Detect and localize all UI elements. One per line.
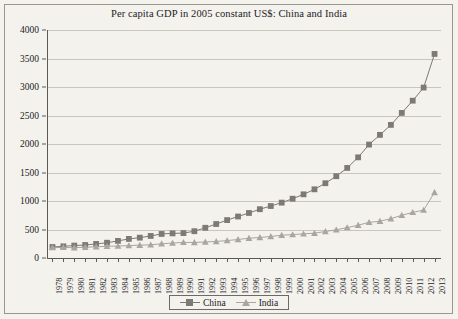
x-axis-tick <box>183 258 184 262</box>
x-axis-tick-label: 2011 <box>416 278 425 294</box>
x-axis-tick-label: 1979 <box>66 278 75 294</box>
x-axis-labels: 1978197919801981198219831984198519861987… <box>47 263 440 297</box>
x-axis-tick <box>391 258 392 262</box>
x-axis-tick-label: 1988 <box>165 278 174 294</box>
y-axis-tick-label: 2500 <box>20 111 39 121</box>
x-axis-tick-label: 1990 <box>186 278 195 294</box>
y-axis-tick-label: 4000 <box>20 25 39 35</box>
x-axis-tick-label: 1999 <box>285 278 294 294</box>
x-axis-tick-label: 1980 <box>77 278 86 294</box>
chart-title: Per capita GDP in 2005 constant US$: Chi… <box>0 8 458 19</box>
data-point-china <box>432 51 438 57</box>
x-axis-tick-label: 1996 <box>252 278 261 294</box>
x-axis-tick <box>413 258 414 262</box>
y-axis-tick-label: 3500 <box>20 54 39 64</box>
data-point-china <box>322 180 328 186</box>
x-axis-tick <box>271 258 272 262</box>
x-axis-tick-label: 1993 <box>219 278 228 294</box>
x-axis-tick <box>140 258 141 262</box>
y-axis-tick-label: 3000 <box>20 82 39 92</box>
x-axis-tick-label: 2003 <box>328 278 337 294</box>
x-axis-tick <box>205 258 206 262</box>
y-axis-tick <box>42 229 46 230</box>
data-point-china <box>312 186 318 192</box>
y-axis-tick <box>42 58 46 59</box>
x-axis-tick-label: 2002 <box>317 278 326 294</box>
data-point-china <box>410 98 416 104</box>
x-axis-tick <box>194 258 195 262</box>
data-point-china <box>333 173 339 179</box>
data-point-china <box>170 230 176 236</box>
y-axis-tick-label: 500 <box>25 225 39 235</box>
data-series-layer <box>47 30 440 258</box>
x-axis-tick-label: 2004 <box>339 278 348 294</box>
x-axis-tick-label: 1981 <box>88 278 97 294</box>
x-axis-tick <box>282 258 283 262</box>
data-point-china <box>344 165 350 171</box>
data-point-china <box>388 122 394 128</box>
x-axis-tick <box>74 258 75 262</box>
data-point-china <box>137 235 143 241</box>
x-axis-tick-label: 2000 <box>296 278 305 294</box>
data-point-china <box>235 214 241 220</box>
data-point-india <box>431 189 438 195</box>
y-axis-tick <box>42 30 46 31</box>
series-line-india <box>52 192 434 247</box>
x-axis-tick-label: 1989 <box>176 278 185 294</box>
y-axis-tick-label: 1500 <box>20 168 39 178</box>
x-axis-tick <box>63 258 64 262</box>
data-point-china <box>191 228 197 234</box>
data-point-china <box>213 221 219 227</box>
data-point-china <box>421 85 427 91</box>
data-point-china <box>290 196 296 202</box>
x-axis-tick <box>304 258 305 262</box>
y-axis-tick <box>42 87 46 88</box>
y-axis-tick-label: 0 <box>34 253 39 263</box>
x-axis-tick <box>107 258 108 262</box>
legend-label-india: India <box>259 298 279 308</box>
data-point-india <box>420 207 427 213</box>
x-axis-tick <box>402 258 403 262</box>
data-point-china <box>279 200 285 206</box>
data-point-china <box>246 210 252 216</box>
x-axis-tick-label: 1991 <box>197 278 206 294</box>
x-axis-tick <box>173 258 174 262</box>
data-point-china <box>148 233 154 239</box>
x-axis-tick <box>151 258 152 262</box>
y-axis-labels: 05001000150020002500300035004000 <box>0 30 45 258</box>
x-axis-tick <box>336 258 337 262</box>
x-axis-tick <box>260 258 261 262</box>
y-axis-tick <box>42 258 46 259</box>
data-point-china <box>224 217 230 223</box>
x-axis-tick-label: 1984 <box>121 278 130 294</box>
x-axis-tick-label: 1985 <box>132 278 141 294</box>
data-point-china <box>301 191 307 197</box>
x-axis-tick-label: 2007 <box>372 278 381 294</box>
x-axis-tick <box>424 258 425 262</box>
x-axis-tick <box>347 258 348 262</box>
x-axis-tick <box>435 258 436 262</box>
x-axis-tick-label: 1978 <box>55 278 64 294</box>
y-axis-tick <box>42 201 46 202</box>
x-axis-tick <box>227 258 228 262</box>
chart-figure: Per capita GDP in 2005 constant US$: Chi… <box>0 0 458 319</box>
y-axis-tick <box>42 115 46 116</box>
x-axis-tick <box>369 258 370 262</box>
x-axis-tick-label: 1986 <box>143 278 152 294</box>
data-point-china <box>399 110 405 116</box>
x-axis-tick-label: 2009 <box>394 278 403 294</box>
x-axis-tick-label: 1995 <box>241 278 250 294</box>
x-axis-tick-label: 1983 <box>110 278 119 294</box>
y-axis-tick <box>42 144 46 145</box>
x-axis-tick-label: 2008 <box>383 278 392 294</box>
x-axis-tick-label: 1987 <box>154 278 163 294</box>
x-axis-tick <box>380 258 381 262</box>
china-marker-icon <box>180 298 200 307</box>
x-axis-tick <box>216 258 217 262</box>
y-axis-tick <box>42 172 46 173</box>
legend-item-china: China <box>180 298 226 308</box>
chart-legend: China India <box>169 295 289 310</box>
x-axis-tick-label: 1997 <box>263 278 272 294</box>
x-axis-tick-label: 2005 <box>350 278 359 294</box>
x-axis-tick-label: 2010 <box>405 278 414 294</box>
